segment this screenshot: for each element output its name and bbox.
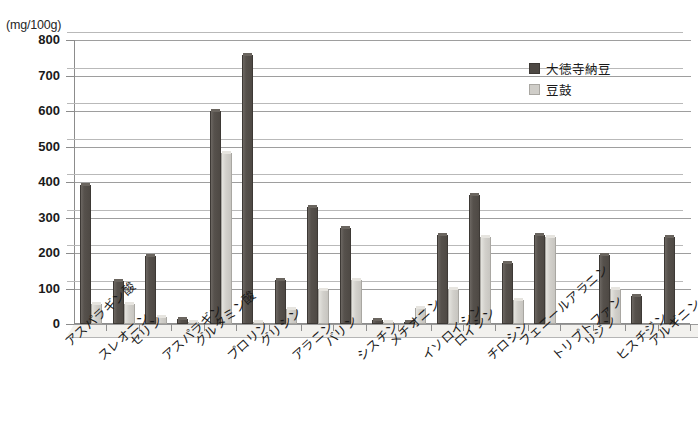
legend: 大徳寺納豆 豆鼓 <box>529 58 611 100</box>
legend-item-series-1: 豆鼓 <box>529 79 611 100</box>
y-tick-label: 300 <box>12 210 60 225</box>
bar-top-face <box>373 318 382 321</box>
bar-top-face <box>81 183 90 186</box>
bar-group <box>469 40 491 324</box>
bar-top-face <box>222 151 231 154</box>
y-tick-label: 700 <box>12 68 60 83</box>
y-tick-mark <box>66 253 74 254</box>
bar-group <box>210 40 232 324</box>
bar-top-face <box>211 109 220 112</box>
legend-swatch-icon-series-1 <box>529 84 540 95</box>
bar-top-face <box>632 294 641 297</box>
bar-series-0 <box>502 263 513 324</box>
bar-group <box>664 40 686 324</box>
bar-group <box>372 40 394 324</box>
bar-top-face <box>481 235 490 238</box>
y-axis-unit-caption: (mg/100g) <box>6 18 61 32</box>
bar-top-face <box>178 317 187 320</box>
bar-series-0 <box>307 207 318 324</box>
bar-group <box>145 40 167 324</box>
y-tick-label: 200 <box>12 245 60 260</box>
bar-top-face <box>319 288 328 291</box>
y-tick-mark <box>66 218 74 219</box>
bar-top-face <box>308 205 317 208</box>
y-tick-mark <box>66 76 74 77</box>
y-tick-label: 100 <box>12 281 60 296</box>
bar-top-face <box>449 287 458 290</box>
bar-top-face <box>535 233 544 236</box>
bar-top-face <box>470 193 479 196</box>
legend-label-series-1: 豆鼓 <box>546 80 572 99</box>
bar-group <box>177 40 199 324</box>
bar-top-face <box>125 302 134 305</box>
bar-group <box>340 40 362 324</box>
bar-group <box>242 40 264 324</box>
legend-label-series-0: 大徳寺納豆 <box>546 59 611 78</box>
legend-item-series-0: 大徳寺納豆 <box>529 58 611 79</box>
bar-top-face <box>546 235 555 238</box>
bar-top-face <box>341 226 350 229</box>
bar-series-0 <box>631 296 642 324</box>
bar-series-0 <box>80 185 91 325</box>
legend-swatch-icon-series-0 <box>529 63 540 74</box>
y-tick-label: 0 <box>12 316 60 331</box>
y-tick-label: 800 <box>12 32 60 47</box>
y-tick-label: 600 <box>12 103 60 118</box>
bar-top-face <box>514 298 523 301</box>
bar-group <box>307 40 329 324</box>
bar-top-face <box>438 233 447 236</box>
bar-series-0 <box>210 111 221 324</box>
bar-group <box>502 40 524 324</box>
y-tick-label: 400 <box>12 174 60 189</box>
bar-group <box>437 40 459 324</box>
y-tick-mark <box>66 182 74 183</box>
bar-top-face <box>352 278 361 281</box>
bar-top-face <box>600 253 609 256</box>
bar-series-0 <box>242 55 253 324</box>
bar-top-face <box>503 261 512 264</box>
gridline-back <box>67 32 683 33</box>
bar-top-face <box>146 254 155 257</box>
x-axis-labels: アスパラギン酸スレオニンセリンアスパラギングルタミン酸プロリングリシンアラニンバ… <box>0 330 698 436</box>
y-tick-mark <box>66 289 74 290</box>
bar-group <box>404 40 426 324</box>
bar-series-0 <box>340 228 351 324</box>
bar-chart: (mg/100g) 0100200300400500600700800 アスパラ… <box>0 0 698 436</box>
y-tick-mark <box>66 147 74 148</box>
bar-group <box>80 40 102 324</box>
bar-top-face <box>276 278 285 281</box>
bar-top-face <box>665 235 674 238</box>
y-tick-mark <box>66 40 74 41</box>
bar-group <box>275 40 297 324</box>
y-tick-label: 500 <box>12 139 60 154</box>
y-tick-mark <box>66 111 74 112</box>
bar-top-face <box>243 53 252 56</box>
bar-group <box>631 40 653 324</box>
